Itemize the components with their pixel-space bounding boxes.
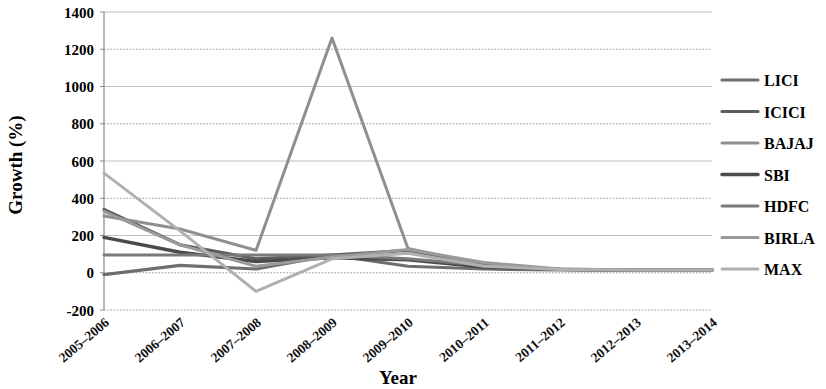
x-tick-label: 2005–2006 (56, 315, 112, 366)
y-tick-label: 400 (72, 191, 95, 207)
chart-legend: LICIICICIBAJAJSBIHDFCBIRLAMAX (722, 72, 815, 278)
series-lines (104, 38, 712, 291)
x-tick-label: 2009–2010 (360, 315, 416, 366)
y-tick-labels: -2000200400600800100012001400 (64, 5, 94, 319)
legend-label: BAJAJ (764, 135, 814, 152)
y-tick-label: 1000 (64, 79, 94, 95)
legend-label: LICI (764, 72, 799, 89)
y-axis-title: Growth (%) (5, 115, 27, 214)
legend-item-sbi[interactable]: SBI (722, 167, 790, 184)
y-tick-label: 1400 (64, 5, 94, 21)
y-tick-label: 200 (72, 228, 95, 244)
x-tick-label: 2011–2012 (512, 315, 568, 365)
legend-item-bajaj[interactable]: BAJAJ (722, 135, 814, 152)
legend-item-max[interactable]: MAX (722, 261, 803, 278)
growth-line-chart: -2000200400600800100012001400 2005–20062… (0, 0, 826, 389)
y-tick-label: 0 (87, 265, 95, 281)
legend-label: MAX (764, 261, 803, 278)
x-tick-label: 2010–2011 (436, 315, 492, 365)
x-tick-label: 2008–2009 (284, 315, 340, 366)
x-tick-label: 2013–2014 (664, 315, 720, 366)
legend-item-lici[interactable]: LICI (722, 72, 799, 89)
legend-label: BIRLA (764, 230, 815, 247)
y-tick-label: -200 (67, 303, 95, 319)
y-tick-label: 800 (72, 116, 95, 132)
legend-item-birla[interactable]: BIRLA (722, 230, 815, 247)
axes (100, 12, 104, 310)
y-tick-label: 600 (72, 154, 95, 170)
x-tick-label: 2006–2007 (132, 315, 188, 366)
y-tick-label: 1200 (64, 42, 94, 58)
x-tick-labels: 2005–20062006–20072007–20082008–20092009… (56, 315, 720, 366)
chart-canvas: -2000200400600800100012001400 2005–20062… (0, 0, 826, 389)
legend-item-icici[interactable]: ICICI (722, 104, 806, 121)
x-tick-label: 2012–2013 (588, 315, 644, 366)
legend-label: HDFC (764, 198, 809, 215)
legend-label: SBI (764, 167, 790, 184)
x-tick-label: 2007–2008 (208, 315, 264, 366)
legend-label: ICICI (764, 104, 806, 121)
x-axis-title: Year (379, 367, 418, 388)
legend-item-hdfc[interactable]: HDFC (722, 198, 809, 215)
